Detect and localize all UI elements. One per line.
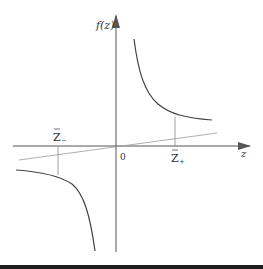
x-axis-label: z [240, 148, 247, 159]
diagram-canvas: f(z) z 0 Z − Z + [0, 0, 263, 269]
z-minus-label: Z − [53, 129, 67, 145]
diagram-svg: f(z) z 0 Z − Z + [0, 0, 263, 269]
z-minus-sub: − [61, 137, 67, 145]
y-axis-label: f(z) [95, 19, 114, 32]
hyperbola-right-branch [134, 39, 212, 120]
z-plus-label: Z + [171, 150, 185, 166]
origin-label: 0 [120, 152, 126, 162]
hyperbola-left-branch [16, 170, 95, 251]
z-plus-base: Z [171, 152, 179, 165]
bottom-band [0, 265, 263, 269]
z-minus-base: Z [53, 131, 61, 144]
z-plus-sub: + [179, 158, 185, 166]
